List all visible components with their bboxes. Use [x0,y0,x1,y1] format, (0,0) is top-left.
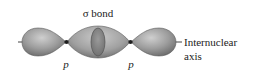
sigma-overlap-ring [91,28,105,56]
right-node [128,40,132,44]
sigma-bond-diagram: σ bond p p Internuclear axis [0,0,263,72]
left-p-label: p [62,58,69,70]
axis-label-line1: Internuclear [184,36,237,48]
axis-label-line2: axis [184,50,202,62]
right-p-label: p [127,58,134,70]
sigma-bond-label: σ bond [83,7,114,19]
right-p-lobe [131,28,176,56]
left-node [64,40,68,44]
left-p-lobe [22,28,66,56]
